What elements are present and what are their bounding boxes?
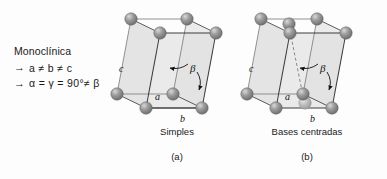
cell-a-axis-label-c: c [119,63,124,74]
cell-b-beta-label: β [319,62,326,74]
right-arrow-icon: → [14,77,25,88]
cell-b-axis-label-b: b [310,113,315,124]
relation-row-angles: → α = γ = 90°≠ β [14,77,100,89]
cell-b-axis-label-a: a [285,91,290,102]
cell-a-shaded-faces [117,19,216,108]
cell-a-axis-label-a: a [155,91,160,102]
relation-angles: α = γ = 90°≠ β [29,77,100,89]
relation-edge-lengths: a ≠ b ≠ c [29,62,72,74]
unit-cell-a-simple: β c a b [111,13,222,124]
relation-row-edges: → a ≠ b ≠ c [14,62,100,74]
monoclinic-unit-cells-figure: β c a b [0,0,387,179]
cell-a-axis-label-b: b [180,113,185,124]
right-arrow-icon: → [14,62,25,73]
cell-b-axis-label-c: c [249,63,254,74]
crystal-system-name: Monoclínica [14,44,100,58]
caption-cell-b-name: Bases centradas [243,126,371,137]
cell-a-beta-label: β [189,62,196,74]
caption-cell-a-name: Simples [122,126,232,137]
caption-cell-b-index: (b) [243,151,371,162]
unit-cell-b-base-centered: β c a b [241,13,352,124]
caption-cell-a-index: (a) [122,151,232,162]
lattice-parameters-block: Monoclínica → a ≠ b ≠ c → α = γ = 90°≠ β [14,44,100,89]
